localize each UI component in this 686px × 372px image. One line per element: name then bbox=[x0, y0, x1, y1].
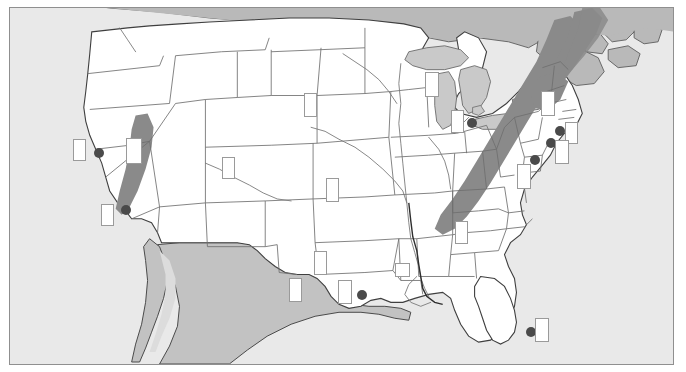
site-houston[interactable] bbox=[357, 290, 367, 300]
label-box-kansas[interactable] bbox=[326, 178, 339, 202]
label-box-california-north[interactable] bbox=[73, 139, 86, 161]
site-chicago[interactable] bbox=[467, 118, 477, 128]
label-box-nevada[interactable] bbox=[126, 138, 142, 164]
site-san-francisco[interactable] bbox=[94, 148, 104, 158]
label-box-wisconsin[interactable] bbox=[425, 72, 439, 97]
label-box-california-south[interactable] bbox=[101, 204, 114, 226]
site-los-angeles[interactable] bbox=[121, 205, 131, 215]
map-canvas bbox=[10, 8, 673, 364]
label-box-texas-gulf[interactable] bbox=[338, 280, 352, 304]
label-box-virginia[interactable] bbox=[517, 164, 531, 189]
label-box-newyork-north[interactable] bbox=[541, 91, 555, 116]
label-box-illinois[interactable] bbox=[451, 110, 464, 133]
label-box-louisiana[interactable] bbox=[395, 263, 410, 277]
label-box-mid-atlantic[interactable] bbox=[555, 140, 569, 164]
figure-page bbox=[0, 0, 686, 372]
site-washington-dc[interactable] bbox=[530, 155, 540, 165]
label-box-tennessee[interactable] bbox=[455, 221, 468, 244]
label-box-colorado[interactable] bbox=[222, 157, 235, 179]
map-frame bbox=[9, 7, 674, 365]
label-box-texas-central[interactable] bbox=[314, 251, 327, 275]
label-box-florida[interactable] bbox=[535, 318, 549, 342]
site-new-york[interactable] bbox=[555, 126, 565, 136]
label-box-nebraska[interactable] bbox=[304, 93, 317, 117]
label-box-texas-west[interactable] bbox=[289, 278, 302, 302]
